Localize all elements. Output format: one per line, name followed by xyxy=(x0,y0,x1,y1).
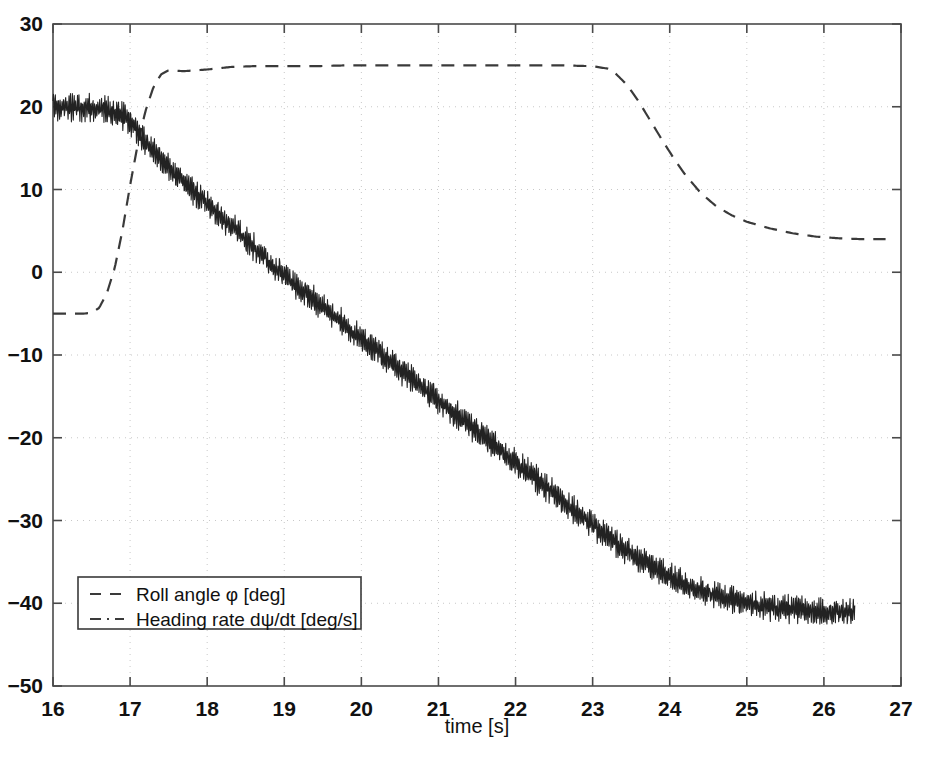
chart-figure: 1617181920212223242526273020100−10−20−30… xyxy=(0,0,929,761)
y-tick-label: 30 xyxy=(20,12,43,35)
series-heading-rate xyxy=(53,93,855,624)
series-roll-angle xyxy=(53,65,886,313)
y-tick-label: 0 xyxy=(31,260,43,283)
x-axis-title: time [s] xyxy=(445,715,509,737)
x-tick-label: 19 xyxy=(273,697,296,720)
y-tick-label: 10 xyxy=(20,178,43,201)
x-tick-label: 24 xyxy=(658,697,682,720)
x-tick-label: 27 xyxy=(889,697,912,720)
y-tick-label: −50 xyxy=(7,674,43,697)
x-tick-label: 16 xyxy=(41,697,64,720)
y-tick-label: −40 xyxy=(7,591,43,614)
legend-label: Roll angle φ [deg] xyxy=(136,584,286,605)
x-tick-label: 17 xyxy=(118,697,141,720)
x-tick-label: 20 xyxy=(350,697,373,720)
y-tick-label: 20 xyxy=(20,95,43,118)
data-series xyxy=(53,65,886,624)
roll-angle-heading-rate-plot: 1617181920212223242526273020100−10−20−30… xyxy=(0,0,929,761)
legend-box: Roll angle φ [deg]Heading rate dψ/dt [de… xyxy=(78,577,361,630)
y-tick-label: −30 xyxy=(7,509,43,532)
x-tick-label: 23 xyxy=(581,697,604,720)
y-tick-label: −10 xyxy=(7,343,43,366)
y-tick-label: −20 xyxy=(7,426,43,449)
x-tick-label: 25 xyxy=(735,697,759,720)
x-tick-label: 18 xyxy=(196,697,220,720)
x-tick-label: 26 xyxy=(812,697,835,720)
legend-label: Heading rate dψ/dt [deg/s] xyxy=(136,609,358,630)
